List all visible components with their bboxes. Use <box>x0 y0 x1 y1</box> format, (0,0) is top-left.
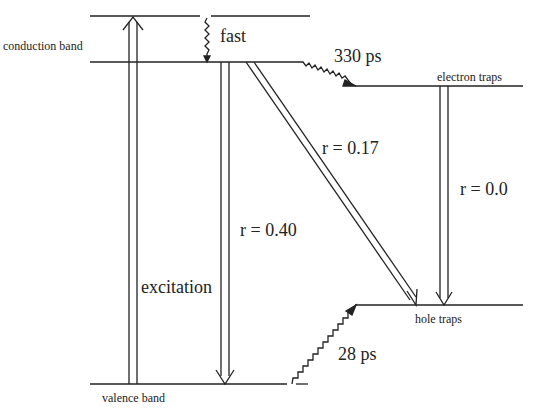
trap-to-trap-arrow <box>436 86 452 305</box>
cb-to-hole-traps-rate-label: r = 0.17 <box>322 139 379 157</box>
fast-relaxation-arrow <box>204 18 210 62</box>
electron-traps-label: electron traps <box>437 71 502 83</box>
cb-to-hole-traps-arrow <box>246 62 417 305</box>
hole-trapping-time-label: 28 ps <box>338 345 377 363</box>
excitation-label: excitation <box>141 278 212 296</box>
trap-to-trap-rate-label: r = 0.0 <box>460 180 508 198</box>
fast-label: fast <box>220 27 246 45</box>
excitation-arrow <box>123 17 143 384</box>
valence-band-label: valence band <box>102 392 165 404</box>
hole-traps-label: hole traps <box>415 313 462 325</box>
band-to-band-rate-label: r = 0.40 <box>240 221 297 239</box>
electron-trapping-time-label: 330 ps <box>334 47 382 65</box>
band-to-band-arrow <box>216 62 234 384</box>
conduction-band-label: conduction band <box>3 40 83 52</box>
energy-diagram <box>0 0 548 419</box>
